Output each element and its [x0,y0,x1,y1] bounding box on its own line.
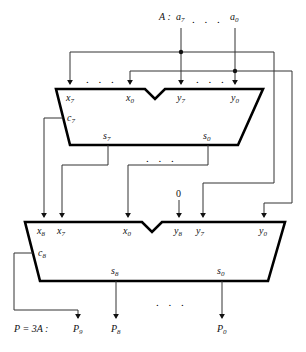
lower-carry-c8: c8 [38,248,46,260]
output-P0: P0 [217,324,227,336]
lower-input-x8: x8 [37,226,45,238]
circuit-diagram: A : a7 . . . a0 . . . . . . x7 x0 y7 y0 … [0,0,306,352]
output-P9: P9 [73,324,83,336]
upper-input-y7: y7 [177,93,185,105]
upper-ellipsis-right: . . . [196,74,227,85]
input-a7-label: a7 [176,12,185,24]
upper-carry-c7: c7 [67,113,75,125]
wire-s7-to-x7 [62,145,108,216]
upper-input-y0: y0 [231,93,239,105]
input-a0-label: a0 [230,12,239,24]
lower-input-y7: y7 [196,226,204,238]
junction-dot-a7 [179,50,183,54]
lower-sum-s8: s8 [111,266,118,278]
lower-input-x0: x0 [123,226,131,238]
output-P8: P8 [111,324,121,336]
upper-ellipsis-left: . . . [86,74,117,85]
upper-sum-s7: s7 [103,131,110,143]
top-ellipsis: . . . [192,14,223,25]
upper-input-x7: x7 [66,93,74,105]
junction-dot-a0 [233,69,237,73]
lower-input-y8: y8 [174,226,182,238]
constant-zero-label: 0 [176,189,181,199]
wire-c7-to-x8 [44,118,63,216]
lower-input-y0: y0 [259,226,267,238]
lower-input-x7: x7 [57,226,65,238]
mid-ellipsis: . . . [146,153,177,164]
input-A-label: A : [159,12,171,22]
result-label: P = 3A : [14,324,48,334]
output-ellipsis: . . . [156,297,187,308]
upper-input-x0: x0 [126,93,134,105]
diagram-canvas [0,0,306,352]
lower-sum-s0: s0 [217,266,224,278]
upper-sum-s0: s0 [203,131,210,143]
